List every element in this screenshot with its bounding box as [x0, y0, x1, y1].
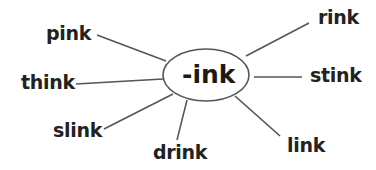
- center-label: -ink: [182, 62, 235, 87]
- word-rink: rink: [318, 8, 359, 27]
- connector-link: [235, 96, 280, 136]
- connector-slink: [104, 94, 173, 129]
- connector-drink: [177, 100, 187, 140]
- word-think: think: [21, 73, 75, 92]
- word-slink: slink: [53, 121, 102, 140]
- word-drink: drink: [153, 143, 207, 162]
- connector-think: [76, 79, 163, 84]
- word-pink: pink: [46, 24, 91, 43]
- connector-rink: [246, 23, 309, 56]
- word-stink: stink: [310, 66, 362, 85]
- word-link: link: [287, 136, 325, 155]
- connector-pink: [97, 35, 166, 61]
